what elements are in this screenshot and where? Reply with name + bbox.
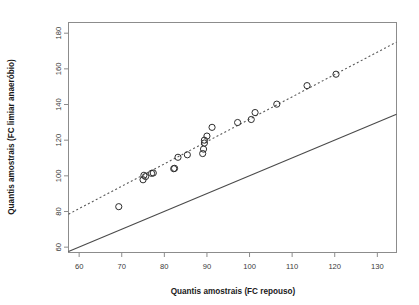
y-axis-ticks	[64, 33, 69, 247]
x-axis-title: Quantis amostrais (FC repouso)	[171, 287, 296, 296]
plot-frame	[69, 23, 397, 253]
scatter-plot-figure: 60708090100110120130 6080100120140160180…	[0, 0, 419, 305]
data-point	[116, 204, 122, 210]
data-point	[304, 83, 310, 89]
y-tick-label: 180	[55, 27, 64, 40]
x-tick-label: 130	[371, 262, 384, 271]
y-tick-label: 100	[55, 169, 64, 182]
x-tick-label: 80	[160, 262, 168, 271]
chart-canvas: 60708090100110120130 6080100120140160180…	[0, 0, 419, 305]
linha-ajuste-line	[69, 42, 397, 214]
data-point	[274, 101, 280, 107]
data-point	[333, 71, 339, 77]
y-tick-label: 120	[55, 134, 64, 147]
data-point	[252, 109, 258, 115]
y-axis-tick-labels: 6080100120140160180	[55, 27, 64, 252]
data-point	[235, 119, 241, 125]
y-tick-label: 140	[55, 98, 64, 111]
x-tick-label: 110	[286, 262, 298, 271]
x-tick-label: 100	[243, 262, 256, 271]
linha-identidade-line	[69, 114, 397, 251]
data-point	[184, 152, 190, 158]
data-point	[209, 124, 215, 130]
x-axis-ticks	[79, 253, 377, 258]
y-axis-title: Quantis amostrais (FC limiar anaeróbio)	[7, 59, 16, 215]
data-point-series	[116, 71, 339, 210]
y-tick-label: 80	[55, 207, 64, 215]
data-point	[200, 146, 206, 152]
reference-lines	[69, 42, 397, 251]
x-tick-label: 90	[203, 262, 211, 271]
y-tick-label: 60	[55, 243, 64, 251]
y-tick-label: 160	[55, 63, 64, 76]
x-tick-label: 60	[75, 262, 83, 271]
x-tick-label: 120	[328, 262, 341, 271]
x-tick-label: 70	[118, 262, 126, 271]
x-axis-tick-labels: 60708090100110120130	[75, 262, 384, 271]
